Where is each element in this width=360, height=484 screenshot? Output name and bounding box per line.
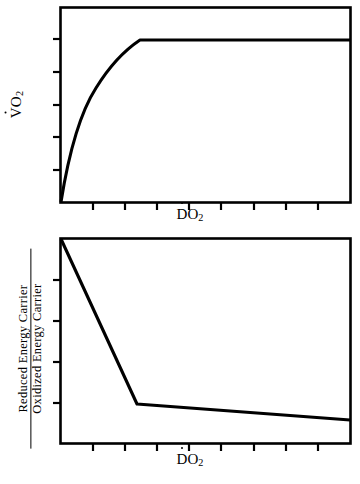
x-axis-label-subscript: 2: [198, 457, 203, 468]
x-axis-label-subscript: 2: [198, 212, 203, 223]
y-axis-label-vo2: VO2: [9, 74, 26, 134]
y-axis-label-redox-ratio: Reduced Energy Carrier Oxidized Energy C…: [17, 249, 44, 449]
y-axis-label-symbol: V: [8, 107, 24, 118]
x-axis-label-text: O: [187, 206, 198, 222]
y-axis-label-text: O: [8, 96, 24, 107]
v-dot-symbol: V: [9, 107, 25, 118]
panel-redox-ratio: Reduced Energy Carrier Oxidized Energy C…: [0, 225, 360, 484]
x-axis-label-do2-bottom: DO2: [130, 451, 250, 468]
y-axis-label-subscript: 2: [14, 91, 25, 96]
plot-frame: [61, 239, 351, 444]
figure-container: VO2 DO2: [0, 0, 360, 484]
d-dot-symbol: D: [177, 206, 188, 223]
fraction-numerator: Reduced Energy Carrier: [17, 249, 31, 449]
redox-plot: [0, 225, 360, 484]
x-axis-label-do2-top: DO2: [130, 206, 250, 223]
x-axis-label-symbol: D: [177, 451, 188, 467]
x-axis-label-text: O: [187, 451, 198, 467]
d-dot-symbol: D: [177, 451, 188, 468]
x-axis-label-symbol: D: [177, 206, 188, 222]
panel-vo2: VO2 DO2: [0, 0, 360, 242]
fraction-denominator: Oxidized Energy Carrier: [32, 249, 45, 449]
plot-frame: [61, 8, 351, 203]
